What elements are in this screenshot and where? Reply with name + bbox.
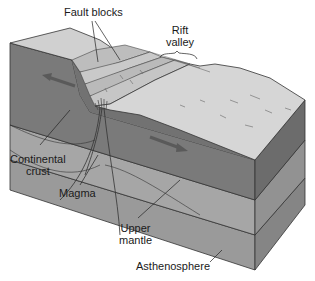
label-fault-blocks: Fault blocks: [64, 6, 123, 18]
label-upper-mantle-line2: mantle: [119, 234, 152, 246]
rift-block-diagram: [0, 0, 315, 281]
label-rift-valley-line1: Rift: [166, 24, 194, 36]
label-rift-valley-line2: valley: [166, 36, 194, 48]
label-rift-valley: Rift valley: [166, 24, 194, 48]
label-upper-mantle: Upper mantle: [119, 222, 152, 246]
label-continental-crust: Continental crust: [10, 153, 66, 177]
label-magma: Magma: [59, 187, 96, 199]
label-continental-crust-line1: Continental: [10, 153, 66, 165]
label-continental-crust-line2: crust: [10, 165, 66, 177]
label-upper-mantle-line1: Upper: [119, 222, 152, 234]
label-asthenosphere: Asthenosphere: [136, 260, 210, 272]
